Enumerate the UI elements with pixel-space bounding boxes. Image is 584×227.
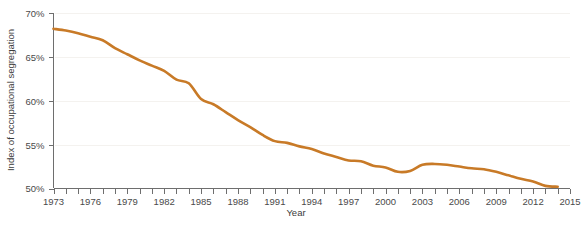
x-tick-label: 1988 bbox=[227, 196, 248, 207]
x-axis-title: Year bbox=[286, 207, 305, 218]
x-axis: 1973197619791982198519881991199419972000… bbox=[43, 189, 581, 219]
data-series bbox=[54, 29, 558, 187]
x-tick-labels: 1973197619791982198519881991199419972000… bbox=[43, 196, 581, 207]
x-tick-marks bbox=[55, 189, 571, 194]
y-tick-label: 70% bbox=[25, 8, 45, 19]
y-tick-marks bbox=[49, 14, 54, 190]
x-tick-label: 2003 bbox=[412, 196, 433, 207]
x-tick-label: 1976 bbox=[80, 196, 101, 207]
x-tick-label: 2009 bbox=[486, 196, 507, 207]
x-tick-label: 1982 bbox=[154, 196, 175, 207]
gridlines bbox=[55, 14, 571, 146]
y-tick-label: 60% bbox=[25, 96, 45, 107]
y-tick-label: 55% bbox=[25, 140, 45, 151]
x-tick-label: 1991 bbox=[264, 196, 285, 207]
x-tick-label: 1973 bbox=[43, 196, 64, 207]
occupational-segregation-chart: 70%65%60%55%50% Index of occupational se… bbox=[0, 0, 584, 227]
y-tick-label: 50% bbox=[25, 183, 45, 194]
chart-plot-area: 70%65%60%55%50% Index of occupational se… bbox=[0, 0, 584, 227]
y-tick-labels: 70%65%60%55%50% bbox=[25, 8, 45, 195]
x-tick-label: 2012 bbox=[523, 196, 544, 207]
y-tick-label: 65% bbox=[25, 52, 45, 63]
x-tick-label: 1997 bbox=[338, 196, 359, 207]
y-axis-title: Index of occupational segregation bbox=[5, 29, 16, 171]
y-axis: 70%65%60%55%50% Index of occupational se… bbox=[5, 8, 54, 195]
x-tick-label: 2000 bbox=[375, 196, 396, 207]
x-tick-label: 2015 bbox=[559, 196, 580, 207]
x-tick-label: 1994 bbox=[301, 196, 322, 207]
x-tick-label: 1979 bbox=[117, 196, 138, 207]
x-tick-label: 2006 bbox=[449, 196, 470, 207]
series-line bbox=[54, 29, 558, 187]
x-tick-label: 1985 bbox=[191, 196, 212, 207]
